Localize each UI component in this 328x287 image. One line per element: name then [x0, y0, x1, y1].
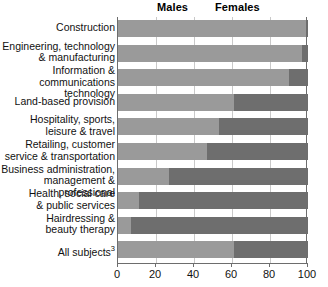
category-label: Health, social care& public services: [29, 188, 115, 211]
x-axis-tick-label: 20: [149, 268, 161, 280]
bar-row: [118, 192, 308, 209]
x-axis-tick: [307, 263, 308, 267]
category-label: Land-based provision: [15, 96, 115, 108]
bar-segment-females: [306, 20, 308, 37]
x-axis-tick-label: 0: [114, 268, 120, 280]
bar-segment-females: [139, 192, 308, 209]
bar-segment-males: [118, 94, 234, 111]
bar-row: [118, 168, 308, 185]
bar-segment-females: [219, 118, 308, 135]
bar-segment-males: [118, 192, 139, 209]
bar-row: [118, 118, 308, 135]
category-label: All subjects3: [58, 243, 115, 258]
x-axis-tick: [117, 263, 118, 267]
bar-segment-males: [118, 69, 289, 86]
bar-segment-females: [169, 168, 308, 185]
x-axis-tick-label: 80: [263, 268, 275, 280]
bar-row: [118, 45, 308, 62]
bar-segment-males: [118, 45, 302, 62]
bar-segment-males: [118, 118, 219, 135]
x-axis-tick-label: 60: [225, 268, 237, 280]
bar-segment-males: [118, 217, 131, 234]
bar-segment-females: [289, 69, 308, 86]
bar-segment-males: [118, 20, 306, 37]
x-axis-tick-label: 40: [187, 268, 199, 280]
x-axis-tick: [269, 263, 270, 267]
bar-segment-females: [207, 143, 308, 160]
x-axis-tick-label: 100: [298, 268, 316, 280]
bar-segment-females: [234, 94, 308, 111]
plot-area: [117, 17, 307, 263]
bar-row: [118, 143, 308, 160]
bar-segment-females: [131, 217, 308, 234]
bar-row: [118, 69, 308, 86]
footnote-marker: 3: [111, 244, 115, 253]
bar-row: [118, 241, 308, 258]
legend-item-males: Males: [157, 1, 188, 13]
category-label: Retailing, customerservice & transportat…: [5, 139, 115, 162]
category-label: Hospitality, sports,leisure & travel: [30, 114, 115, 137]
stacked-bar-chart: Males Females 020406080100 ConstructionE…: [0, 0, 328, 287]
bar-segment-males: [118, 241, 234, 258]
category-label: Engineering, technology& manufacturing: [2, 41, 115, 64]
bar-segment-males: [118, 143, 207, 160]
chart-legend: Males Females: [117, 0, 307, 17]
legend-item-females: Females: [215, 1, 260, 13]
x-axis-tick: [155, 263, 156, 267]
bar-row: [118, 217, 308, 234]
x-axis-tick: [231, 263, 232, 267]
bar-segment-males: [118, 168, 169, 185]
bar-segment-females: [234, 241, 308, 258]
bar-row: [118, 94, 308, 111]
category-label: Construction: [56, 22, 115, 34]
x-axis-line: [117, 263, 308, 264]
bar-row: [118, 20, 308, 37]
x-axis-tick: [193, 263, 194, 267]
category-label: Hairdressing &beauty therapy: [46, 213, 115, 236]
bar-segment-females: [302, 45, 308, 62]
